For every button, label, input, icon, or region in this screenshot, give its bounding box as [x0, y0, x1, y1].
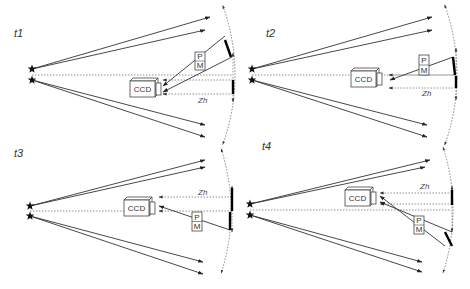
pm-label-p: P: [416, 216, 421, 225]
panel-label: t3: [14, 147, 24, 159]
star-icon: [26, 212, 35, 220]
star-ray: [252, 80, 427, 125]
star-icon: [28, 76, 37, 84]
ccd-lens: [377, 73, 382, 85]
ccd-label: CCD: [349, 194, 367, 203]
zh-label: Zh: [197, 96, 208, 105]
star-ray: [30, 160, 205, 206]
star-ray: [250, 215, 422, 272]
panel-label: t4: [262, 140, 271, 152]
pm-label-m: M: [416, 225, 423, 234]
zh-label: Zh: [421, 89, 432, 98]
pm-label-m: M: [421, 66, 428, 75]
star-ray: [32, 30, 205, 69]
pm-label-m: M: [197, 61, 204, 70]
star-ray: [32, 17, 210, 69]
star-ray: [252, 30, 432, 69]
star-ray: [32, 80, 205, 125]
pm-box: PM: [419, 55, 429, 75]
panel-t4: t4CCDPMZh: [246, 140, 453, 273]
ccd-lens: [150, 202, 155, 214]
star-ray: [30, 216, 203, 262]
ccd-lens: [371, 192, 376, 204]
star-ray: [250, 167, 425, 204]
star-ray: [252, 17, 432, 69]
mirror-segment: [453, 57, 455, 75]
pm-box: PM: [414, 216, 424, 234]
star-icon: [248, 65, 257, 73]
ccd-label: CCD: [134, 85, 152, 94]
star-icon: [26, 202, 35, 210]
star-ray: [30, 167, 205, 206]
panel-t3: t3CCDPMZh: [14, 147, 232, 274]
reflected-beam: [380, 196, 445, 246]
star-ray: [30, 216, 203, 274]
ccd-lens: [156, 83, 161, 95]
pm-label-p: P: [197, 52, 202, 61]
mirror-segment: [225, 40, 231, 57]
pm-label-m: M: [194, 222, 201, 231]
pm-box: PM: [192, 212, 202, 231]
ccd-camera: CCD: [345, 187, 376, 206]
star-ray: [250, 160, 430, 204]
figure-canvas: t1CCDPMZht2CCDPMZht3CCDPMZht4CCDPMZh: [0, 0, 470, 289]
zh-label: Zh: [419, 182, 430, 191]
pm-label-p: P: [421, 56, 426, 65]
star-icon: [246, 200, 255, 208]
mirror-segment: [445, 232, 452, 246]
star-ray: [32, 80, 205, 137]
panel-t2: t2CCDPMZh: [248, 5, 457, 145]
pm-label-p: P: [194, 213, 199, 222]
ccd-label: CCD: [355, 75, 373, 84]
star-icon: [248, 76, 257, 84]
ccd-camera: CCD: [130, 78, 161, 97]
ccd-camera: CCD: [351, 68, 382, 87]
star-icon: [28, 65, 37, 73]
panel-t1: t1CCDPMZh: [14, 6, 235, 145]
panel-label: t2: [266, 27, 275, 39]
pm-box: PM: [195, 52, 205, 70]
panel-label: t1: [14, 27, 23, 39]
ccd-camera: CCD: [124, 197, 155, 216]
zh-label: Zh: [197, 188, 208, 197]
reflected-beam: [163, 36, 225, 86]
ccd-label: CCD: [128, 204, 146, 213]
star-ray: [250, 215, 422, 262]
star-ray: [252, 80, 427, 137]
star-icon: [246, 211, 255, 219]
